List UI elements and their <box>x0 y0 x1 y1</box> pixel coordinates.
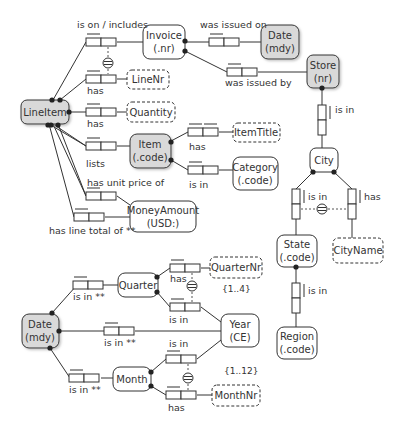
entity-name: City <box>314 155 334 166</box>
fact-lineitem-unitprice[interactable] <box>86 188 116 200</box>
reading: is in <box>308 285 327 296</box>
fact-lineitem-invoice[interactable] <box>86 34 116 46</box>
fact-month-year[interactable] <box>166 351 196 363</box>
entity-name: Store <box>310 60 336 71</box>
external-uniqueness-icon <box>103 58 113 68</box>
value-name: QuarterNr <box>211 262 262 273</box>
entity-name: Item <box>139 139 162 150</box>
entity-name: Invoice <box>146 30 182 41</box>
reading: was issued on <box>200 19 267 30</box>
entity-name: MoneyAmount <box>127 205 200 216</box>
reading: lists <box>86 158 105 169</box>
value-constraint: {1..4} <box>222 284 251 294</box>
fact-lineitem-item[interactable] <box>86 138 116 150</box>
reading: is in ** <box>73 291 105 302</box>
value-name: ItemTitle <box>234 127 278 138</box>
value-name: LineNr <box>132 74 165 85</box>
fact-lineitem-linenr[interactable] <box>86 71 116 83</box>
entity-name: Category <box>232 162 278 173</box>
fact-city-cityname[interactable] <box>348 189 360 219</box>
external-uniqueness-icon <box>183 373 193 383</box>
reading: was issued by <box>225 77 292 88</box>
entity-ref: (.code) <box>279 344 314 355</box>
fact-quarter-quarternr[interactable] <box>170 260 200 272</box>
entity-name: Year <box>228 319 251 330</box>
entity-ref: (.code) <box>237 175 272 186</box>
reading: has <box>364 191 381 202</box>
fact-invoice-store[interactable] <box>227 64 257 76</box>
reading: is in ** <box>69 384 101 395</box>
entity-name: Date <box>28 319 52 330</box>
entity-name: State <box>284 239 310 250</box>
reading: has unit price of <box>87 177 165 188</box>
reading: is on / includes <box>77 19 148 30</box>
entity-ref: (mdy) <box>25 332 55 343</box>
reading: has <box>168 402 185 413</box>
reading: is in <box>189 179 208 190</box>
entity-name: Region <box>280 331 314 342</box>
entity-ref: (nr) <box>314 73 332 84</box>
fact-lineitem-quantity[interactable] <box>86 104 116 116</box>
fact-state-region[interactable] <box>292 283 304 313</box>
fact-store-city[interactable] <box>318 105 330 135</box>
fact-item-itemtitle[interactable] <box>188 124 218 136</box>
fact-item-category[interactable] <box>188 162 218 174</box>
external-uniqueness-icon <box>317 204 327 214</box>
reading: has <box>87 85 104 96</box>
fact-lineitem-total[interactable] <box>74 209 104 221</box>
value-name: CityName <box>333 245 382 256</box>
fact-date-quarter[interactable] <box>73 277 103 289</box>
reading: has <box>170 273 187 284</box>
value-name: MonthNr <box>215 390 259 401</box>
entity-ref: (.nr) <box>153 43 175 54</box>
entity-ref: (USD:) <box>147 218 180 229</box>
reading: is in ** <box>104 337 136 348</box>
reading: is in <box>308 191 327 202</box>
fact-invoice-date[interactable] <box>209 34 239 46</box>
entity-ref: (mdy) <box>265 43 295 54</box>
fact-month-monthnr[interactable] <box>166 387 196 399</box>
reading: is in <box>169 314 188 325</box>
fact-city-state[interactable] <box>292 189 304 219</box>
entity-name: LineItem <box>23 107 67 118</box>
reading: is in <box>335 104 354 115</box>
fact-date-year[interactable] <box>104 323 134 335</box>
external-uniqueness-icon <box>187 281 197 291</box>
reading: has <box>189 141 206 152</box>
entity-ref: (CE) <box>229 332 250 343</box>
entity-name: Date <box>268 30 292 41</box>
value-types <box>127 70 383 406</box>
reading: has line total of ** <box>49 225 136 236</box>
orm-diagram: LineItem Invoice (.nr) Date (mdy) Store … <box>0 0 398 432</box>
entity-name: Quarter <box>119 280 159 291</box>
fact-date-month[interactable] <box>69 370 99 382</box>
entity-name: Month <box>116 374 147 385</box>
value-name: Quantity <box>129 107 172 118</box>
reading: has <box>87 118 104 129</box>
reading: is in <box>169 338 188 349</box>
value-constraint: {1..12} <box>224 366 258 376</box>
entity-ref: (.code) <box>132 152 167 163</box>
entity-ref: (.code) <box>279 252 314 263</box>
fact-quarter-year[interactable] <box>170 299 200 311</box>
